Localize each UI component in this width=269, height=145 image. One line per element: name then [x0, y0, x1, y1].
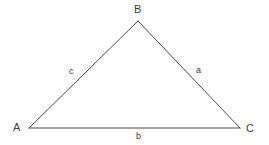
side-label-c: c	[69, 67, 74, 76]
triangle-side-c	[29, 21, 138, 128]
side-label-b: b	[136, 132, 141, 141]
triangle-drawing	[0, 0, 269, 145]
side-label-a: a	[196, 66, 201, 75]
vertex-label-c: C	[246, 123, 254, 134]
vertex-label-b: B	[134, 4, 141, 15]
vertex-label-a: A	[13, 122, 20, 133]
triangle-side-a	[138, 21, 240, 128]
triangle-figure: A B C c a b	[0, 0, 269, 145]
